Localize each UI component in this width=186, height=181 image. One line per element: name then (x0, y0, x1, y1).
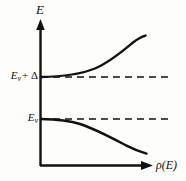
y-axis-label: E (36, 3, 44, 16)
y-axis-arrow-icon (36, 19, 45, 30)
level-label-lower: Ev (28, 112, 38, 125)
plot-canvas (0, 0, 186, 181)
curve-upper-band (41, 36, 146, 77)
level-upper-term: Δ (31, 69, 38, 81)
curve-lower-band (41, 119, 147, 154)
level-upper-operator: + (21, 69, 28, 81)
density-of-states-figure: E ρ(E) Ev+ Δ Ev (0, 0, 186, 181)
level-label-upper: Ev+ Δ (11, 70, 38, 83)
level-lower-subscript: v (34, 116, 38, 125)
x-axis-label: ρ(E) (156, 159, 177, 171)
x-axis-arrow-icon (141, 161, 153, 170)
